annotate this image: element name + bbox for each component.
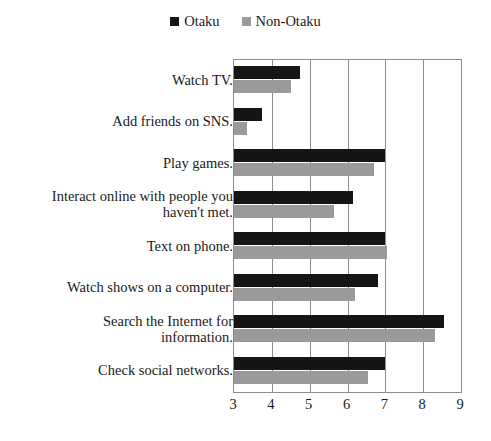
bar-group bbox=[234, 142, 461, 184]
bar-otaku bbox=[234, 108, 262, 121]
bar-otaku bbox=[234, 357, 385, 370]
bar-non-otaku bbox=[234, 80, 291, 93]
bar-group bbox=[234, 184, 461, 226]
chart-rows: Watch TV.Add friends on SNS.Play games.I… bbox=[0, 59, 491, 391]
chart-row: Interact online with people you haven't … bbox=[0, 184, 491, 226]
chart-row: Watch TV. bbox=[0, 59, 491, 101]
bar-chart: Otaku Non-Otaku Watch TV.Add friends on … bbox=[0, 0, 491, 441]
x-tick-label: 7 bbox=[381, 396, 388, 413]
category-label: Interact online with people you haven't … bbox=[13, 188, 233, 220]
x-tick-label: 8 bbox=[419, 396, 426, 413]
category-label: Watch TV. bbox=[13, 72, 233, 88]
chart-row: Search the Internet for information. bbox=[0, 308, 491, 350]
bar-non-otaku bbox=[234, 371, 368, 384]
chart-row: Add friends on SNS. bbox=[0, 101, 491, 143]
bar-otaku bbox=[234, 191, 353, 204]
bar-group bbox=[234, 59, 461, 101]
bar-non-otaku bbox=[234, 163, 374, 176]
bar-group bbox=[234, 267, 461, 309]
category-label: Text on phone. bbox=[13, 238, 233, 254]
legend-entry-otaku: Otaku bbox=[170, 14, 219, 29]
x-tick-label: 6 bbox=[343, 396, 350, 413]
category-label: Play games. bbox=[13, 155, 233, 171]
chart-row: Watch shows on a computer. bbox=[0, 267, 491, 309]
legend-label-otaku: Otaku bbox=[184, 14, 219, 29]
chart-legend: Otaku Non-Otaku bbox=[0, 14, 491, 29]
x-axis-ticks: 3456789 bbox=[0, 396, 491, 426]
legend-entry-non-otaku: Non-Otaku bbox=[242, 14, 321, 29]
chart-row: Check social networks. bbox=[0, 350, 491, 392]
bar-otaku bbox=[234, 315, 444, 328]
bar-otaku bbox=[234, 66, 300, 79]
x-tick-label: 3 bbox=[229, 396, 236, 413]
bar-non-otaku bbox=[234, 288, 355, 301]
bar-non-otaku bbox=[234, 205, 334, 218]
legend-swatch-otaku bbox=[170, 17, 179, 26]
category-label: Watch shows on a computer. bbox=[13, 279, 233, 295]
chart-row: Play games. bbox=[0, 142, 491, 184]
legend-swatch-non-otaku bbox=[242, 17, 251, 26]
bar-otaku bbox=[234, 149, 385, 162]
category-label: Search the Internet for information. bbox=[13, 313, 233, 345]
bar-group bbox=[234, 350, 461, 392]
bar-non-otaku bbox=[234, 122, 247, 135]
bar-non-otaku bbox=[234, 329, 435, 342]
bar-otaku bbox=[234, 274, 378, 287]
bar-group bbox=[234, 101, 461, 143]
x-tick-label: 9 bbox=[456, 396, 463, 413]
category-label: Add friends on SNS. bbox=[13, 113, 233, 129]
bar-group bbox=[234, 225, 461, 267]
bar-otaku bbox=[234, 232, 385, 245]
x-tick-label: 4 bbox=[267, 396, 274, 413]
category-label: Check social networks. bbox=[13, 362, 233, 378]
x-tick-label: 5 bbox=[305, 396, 312, 413]
bar-group bbox=[234, 308, 461, 350]
chart-row: Text on phone. bbox=[0, 225, 491, 267]
legend-label-non-otaku: Non-Otaku bbox=[256, 14, 321, 29]
bar-non-otaku bbox=[234, 246, 387, 259]
